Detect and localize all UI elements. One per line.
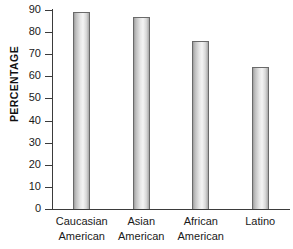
category-label-line: Latino xyxy=(218,214,293,229)
y-axis-tick-label: 50 xyxy=(1,92,41,103)
y-axis-tick-mark xyxy=(45,121,52,122)
y-axis-tick-label: 80 xyxy=(1,26,41,37)
y-axis-tick-label: 40 xyxy=(1,115,41,126)
x-axis-category-label: Latino xyxy=(218,214,293,229)
y-axis-line xyxy=(52,9,53,210)
bar xyxy=(192,41,209,209)
category-label-line: American xyxy=(159,229,243,244)
y-axis-tick-mark xyxy=(45,10,52,11)
bar xyxy=(252,67,269,209)
y-axis-tick-mark xyxy=(45,165,52,166)
y-axis-tick-mark xyxy=(45,98,52,99)
bar xyxy=(73,12,90,209)
y-axis-tick-mark xyxy=(45,187,52,188)
y-axis-tick-mark xyxy=(45,209,52,210)
y-axis-tick-label: 70 xyxy=(1,48,41,59)
y-axis-tick-label: 60 xyxy=(1,70,41,81)
bar xyxy=(133,17,150,209)
y-axis-tick-label: 90 xyxy=(1,4,41,15)
y-axis-tick-mark xyxy=(45,54,52,55)
y-axis-tick-label: 30 xyxy=(1,137,41,148)
bar-chart: PERCENTAGE 9080706050403020100 Caucasian… xyxy=(0,0,293,249)
y-axis-tick-label: 0 xyxy=(1,203,41,214)
y-axis-tick-label: 20 xyxy=(1,159,41,170)
x-axis-line xyxy=(52,209,290,210)
y-axis-tick-mark xyxy=(45,32,52,33)
y-axis-tick-label: 10 xyxy=(1,181,41,192)
y-axis-title: PERCENTAGE xyxy=(8,24,20,144)
y-axis-tick-mark xyxy=(45,143,52,144)
y-axis-tick-mark xyxy=(45,76,52,77)
